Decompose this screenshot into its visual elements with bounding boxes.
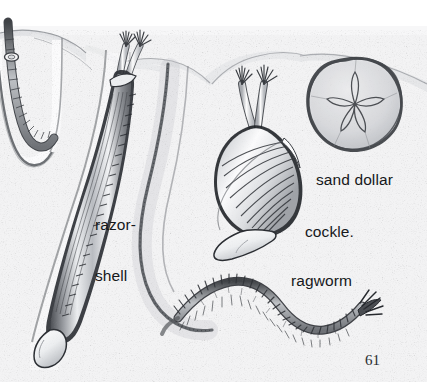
label-razor-shell: razor- shell: [95, 182, 136, 318]
label-cockle: cockle.: [305, 223, 354, 240]
lugworm-creature: [5, 22, 55, 147]
razor-siphons: [120, 30, 151, 76]
label-ragworm: ragworm: [291, 272, 352, 289]
label-razor-shell-line1: razor-: [95, 216, 136, 233]
sand-scene: [0, 0, 427, 382]
page-number: 61: [365, 352, 380, 369]
cockle-siphons: [236, 65, 277, 128]
sand-grain-overlay: [0, 30, 427, 382]
ragworm-head: [358, 290, 383, 316]
cockle-creature: [214, 65, 302, 260]
label-razor-shell-line2: shell: [95, 267, 136, 284]
label-sand-dollar: sand dollar: [316, 171, 393, 188]
sand-dollar-creature: [306, 57, 403, 152]
illustration-page: razor- shell sand dollar cockle. ragworm…: [0, 0, 427, 382]
sand-surface-contour: [0, 30, 427, 92]
